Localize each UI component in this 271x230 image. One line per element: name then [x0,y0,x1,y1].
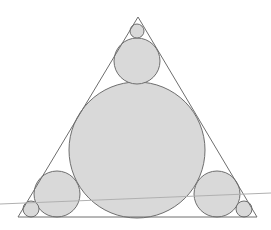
diagram-svg [0,0,271,230]
diagram-canvas: Circles inscribed in an equilateral tria… [0,0,271,230]
circles-group [23,24,252,218]
circle-bottom-right-medium [194,171,240,217]
circle-center-large [69,82,205,218]
circle-bottom-right-small [236,201,252,217]
